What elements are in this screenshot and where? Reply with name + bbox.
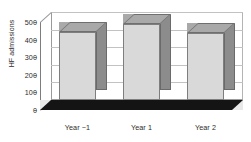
bar-front-face bbox=[59, 32, 96, 100]
plot-depth-edge-top bbox=[40, 12, 52, 23]
y-axis-tick-mark bbox=[34, 110, 37, 111]
bar bbox=[187, 33, 224, 100]
bar-top-face bbox=[59, 22, 96, 32]
bar-side-face bbox=[96, 22, 107, 90]
y-axis-tick-mark bbox=[34, 75, 37, 76]
gridline bbox=[51, 12, 243, 13]
y-axis-tick-mark bbox=[34, 22, 37, 23]
bar-front-face bbox=[187, 33, 224, 100]
bar-chart: HF admissions 0100200300400500 Year −1Ye… bbox=[0, 0, 251, 142]
plot-floor-shadow bbox=[40, 100, 243, 110]
bar-top-face bbox=[123, 14, 160, 24]
x-axis-tick-label: Year 2 bbox=[176, 123, 236, 132]
bar-side-face bbox=[160, 14, 171, 90]
bar-front-face bbox=[123, 24, 160, 100]
y-axis-tick-mark bbox=[34, 92, 37, 93]
x-axis-tick-label: Year 1 bbox=[112, 123, 172, 132]
bar-top-face bbox=[187, 23, 224, 33]
y-axis-tick-labels: 0100200300400500 bbox=[10, 0, 37, 142]
plot-area bbox=[40, 12, 243, 110]
bar-side-face bbox=[224, 23, 235, 90]
plot-floor bbox=[40, 100, 243, 110]
x-axis-tick-label: Year −1 bbox=[48, 123, 108, 132]
y-axis-tick-mark bbox=[34, 57, 37, 58]
y-axis-line bbox=[40, 22, 41, 110]
bar bbox=[123, 24, 160, 100]
y-axis-tick-mark bbox=[34, 40, 37, 41]
bar bbox=[59, 32, 96, 100]
